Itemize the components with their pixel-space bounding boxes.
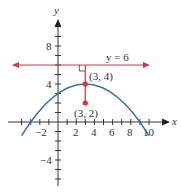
x-tick-label: 2	[73, 126, 79, 138]
directrix-left-arrow-icon	[12, 62, 19, 68]
focus-point	[83, 100, 88, 105]
y-tick-label: −4	[40, 154, 52, 166]
y-tick-label: 4	[46, 78, 52, 90]
parabola-chart: x y −2 2 4	[0, 0, 181, 193]
right-angle-marker-icon	[79, 65, 85, 71]
vertex-point	[83, 81, 88, 86]
x-tick-label: −2	[35, 126, 47, 138]
x-axis-label: x	[171, 115, 177, 127]
y-tick-label: 8	[46, 40, 52, 52]
x-tick-label: 6	[109, 126, 115, 138]
x-axis-arrow-icon	[162, 119, 170, 126]
y-axis-label: y	[53, 4, 59, 16]
vertex-label: (3, 4)	[89, 70, 113, 83]
directrix-label: y = 6	[106, 51, 129, 63]
y-axis-arrow-icon	[55, 19, 62, 27]
x-tick-label: 4	[91, 126, 97, 138]
focus-label: (3, 2)	[74, 107, 98, 120]
directrix-right-arrow-icon	[143, 62, 150, 68]
x-tick-label: 8	[127, 126, 133, 138]
